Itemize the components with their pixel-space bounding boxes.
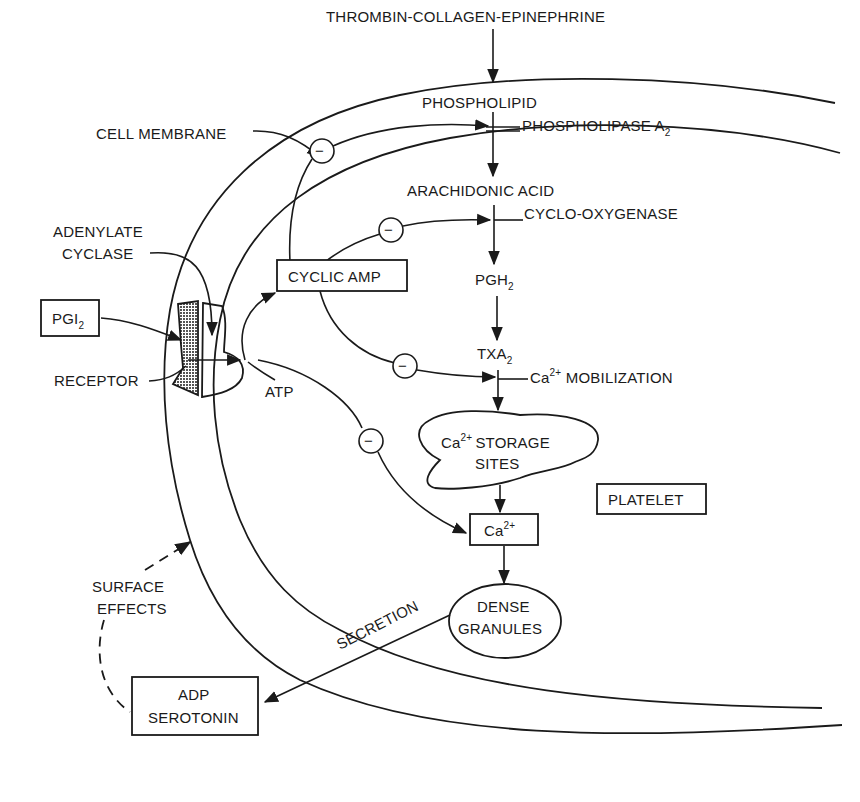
atp-label: ATP: [265, 383, 294, 400]
atp-to-camp-arrow: [242, 293, 275, 360]
dense-granules-label-line1: DENSE: [477, 598, 530, 615]
camp-to-inhibit3-line: [320, 291, 395, 363]
pgh2-label: PGH2: [475, 271, 514, 292]
inhibit-symbol-3: −: [398, 357, 407, 374]
inhibit-symbol-4: −: [364, 432, 373, 449]
inhibit-symbol-2: −: [384, 221, 393, 238]
agonists-label: THROMBIN-COLLAGEN-EPINEPHRINE: [326, 8, 605, 25]
camp-to-inhibit1-line: [290, 159, 312, 262]
inhibit-symbol-1: −: [315, 142, 324, 159]
cell-membrane-label: CELL MEMBRANE: [96, 125, 226, 142]
atp-pointer: [248, 362, 275, 380]
surface-effects-arrow: [145, 542, 190, 570]
adp-label: ADP: [178, 686, 209, 703]
adenylate-cyclase-label-line2: CYCLASE: [62, 245, 133, 262]
ca-mobilization-label: Ca2+ MOBILIZATION: [530, 367, 673, 386]
camp-to-inhibit2-line: [325, 234, 380, 262]
adenylate-cyclase-shape: [202, 303, 243, 397]
platelet-pathway-diagram: THROMBIN-COLLAGEN-EPINEPHRINE PHOSPHOLIP…: [0, 0, 860, 802]
phospholipid-label: PHOSPHOLIPID: [422, 94, 537, 111]
receptor-shape: [173, 301, 198, 395]
cyclic-amp-label: CYCLIC AMP: [288, 268, 381, 285]
inhibit-ca-mobilization-arrow: [417, 370, 495, 377]
phospholipase-label: PHOSPHOLIPASE A2: [522, 117, 671, 138]
surface-effects-dashed-loop: [100, 620, 130, 712]
ca-storage-label-line2: SITES: [475, 455, 519, 472]
receptor-label: RECEPTOR: [54, 372, 139, 389]
serotonin-label: SEROTONIN: [148, 709, 239, 726]
secretion-label: SECRETION: [334, 597, 421, 653]
arachidonic-acid-label: ARACHIDONIC ACID: [407, 182, 554, 199]
cyclooxygenase-label: CYCLO-OXYGENASE: [524, 205, 678, 222]
adenylate-cyclase-label-line1: ADENYLATE: [53, 223, 143, 240]
platelet-label: PLATELET: [608, 491, 684, 508]
surface-effects-label-line1: SURFACE: [92, 578, 164, 595]
txa2-label: TXA2: [477, 345, 513, 366]
ca-storage-label-line1: Ca2+STORAGE: [441, 432, 550, 451]
surface-effects-label-line2: EFFECTS: [97, 600, 167, 617]
dense-granules-label-line2: GRANULES: [458, 620, 542, 637]
diagram-svg: THROMBIN-COLLAGEN-EPINEPHRINE PHOSPHOLIP…: [0, 0, 860, 802]
inhibit-cyclooxygenase-arrow: [403, 220, 490, 226]
